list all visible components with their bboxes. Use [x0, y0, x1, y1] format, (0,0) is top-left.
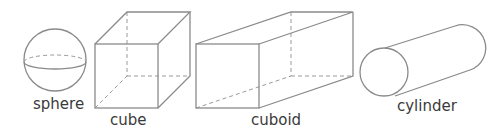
sphere-figure	[24, 29, 86, 91]
cuboid-label: cuboid	[251, 113, 301, 128]
sphere-label: sphere	[33, 97, 84, 112]
cuboid-figure	[196, 12, 353, 108]
cube-label: cube	[110, 113, 147, 128]
cylinder-label: cylinder	[397, 99, 457, 114]
cube-figure	[95, 12, 190, 108]
cylinder-figure	[360, 25, 486, 96]
